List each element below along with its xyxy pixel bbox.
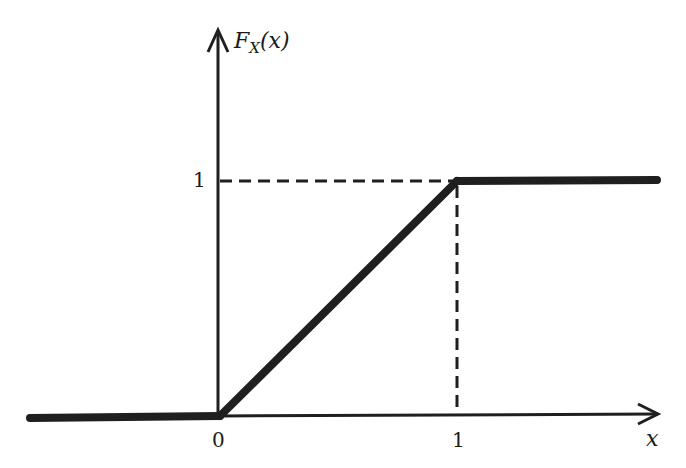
x-axis-label: x: [646, 426, 658, 451]
cdf-chart: [0, 0, 686, 468]
cdf-segment-right: [457, 180, 657, 181]
x-axis: [218, 414, 658, 416]
cdf-segment-ramp: [220, 181, 457, 416]
y-tick-1: 1: [193, 168, 206, 192]
x-tick-0: 0: [212, 428, 225, 452]
x-tick-1: 1: [452, 428, 465, 452]
cdf-segment-left: [30, 416, 220, 418]
y-axis-label: FX(x): [234, 28, 290, 57]
